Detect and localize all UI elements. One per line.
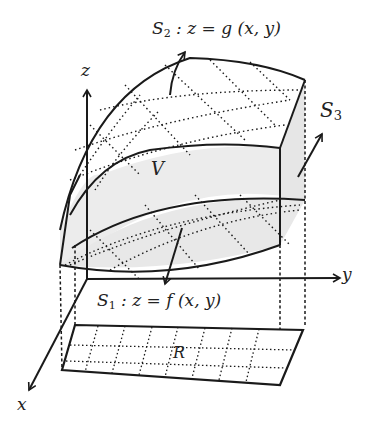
- axis-z-label: z: [81, 62, 90, 79]
- s1-label: S1 : z = f (x, y): [97, 292, 221, 311]
- axis-x-label: x: [17, 396, 27, 413]
- volume-label: V: [151, 160, 164, 178]
- region-label: R: [173, 345, 185, 361]
- y-axis: [87, 278, 340, 279]
- s3-label: S3: [320, 100, 342, 122]
- axis-y-label: y: [342, 266, 352, 283]
- s2-label: S2 : z = g (x, y): [152, 20, 281, 39]
- solid-region-diagram: [0, 0, 367, 428]
